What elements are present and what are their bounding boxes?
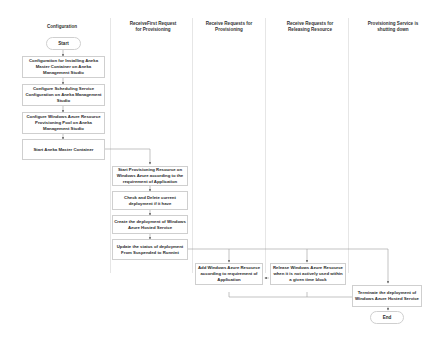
terminate-deployment: Terminate the deployment of Windows Azur… — [352, 285, 422, 307]
end-node: End — [370, 311, 404, 324]
add-azure-resource: Add Windows Azure Resource according to … — [195, 263, 263, 285]
start-provisioning-resource: Start Provisioning Resource on Windows A… — [112, 166, 188, 186]
config-provisioning-pool: Configure Windows Azure Resource Provisi… — [22, 112, 105, 134]
release-azure-resource: Release Windows Azure Resource when it i… — [270, 263, 346, 285]
start-node: Start — [46, 37, 81, 50]
check-delete-deployment: Check and Delete current deployment if i… — [112, 191, 188, 210]
create-deployment: Create the deployment of Windows Azure H… — [112, 215, 188, 234]
config-scheduling-service: Configure Scheduling Service Configurati… — [22, 84, 105, 106]
config-install-master-container: Configuration for Installing Aneka Maste… — [22, 56, 105, 78]
update-deployment-status: Update the status of deployment From Sus… — [112, 239, 188, 260]
start-master-container: Start Aneka Master Container — [22, 139, 105, 160]
